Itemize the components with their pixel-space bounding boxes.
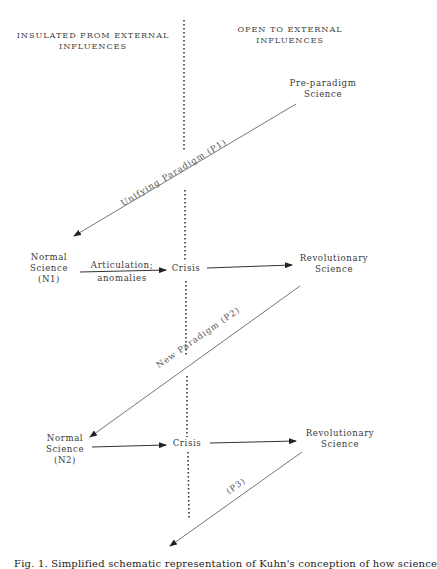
- node-crisis-1: Crisis: [168, 263, 204, 274]
- header-insulated-line2: INFLUENCES: [8, 41, 178, 52]
- rev1-line2: Science: [294, 264, 374, 275]
- node-revolutionary-science-2: Revolutionary Science: [300, 428, 380, 450]
- node-crisis-2: Crisis: [169, 438, 205, 449]
- node-pre-paradigm-science: Pre-paradigm Science: [288, 78, 358, 100]
- node-normal-science-n2: Normal Science (N2): [42, 433, 88, 466]
- n1-line3: (N1): [26, 274, 72, 285]
- n2-line1: Normal: [42, 433, 88, 444]
- header-open-line2: INFLUENCES: [220, 35, 360, 46]
- normal-to-crisis-arrow-2: [92, 445, 166, 447]
- header-insulated-line1: INSULATED FROM EXTERNAL: [8, 30, 178, 41]
- pre-paradigm-line1: Pre-paradigm: [288, 78, 358, 89]
- node-normal-science-n1: Normal Science (N1): [26, 252, 72, 285]
- header-open: OPEN TO EXTERNAL INFLUENCES: [220, 24, 360, 46]
- n1-line1: Normal: [26, 252, 72, 263]
- p3-arrow: [170, 452, 302, 546]
- rev2-line1: Revolutionary: [300, 428, 380, 439]
- crisis-to-revolutionary-arrow-2: [210, 441, 296, 443]
- header-open-line1: OPEN TO EXTERNAL: [220, 24, 360, 35]
- crisis-to-revolutionary-arrow-1: [207, 265, 292, 268]
- figure-caption: Fig. 1. Simplified schematic representat…: [14, 558, 437, 569]
- header-insulated: INSULATED FROM EXTERNAL INFLUENCES: [8, 30, 178, 52]
- n2-line2: Science: [42, 444, 88, 455]
- label-articulation: Articulation;: [82, 260, 162, 271]
- new-paradigm-arrow: [90, 286, 300, 437]
- rev1-line1: Revolutionary: [294, 253, 374, 264]
- n1-line2: Science: [26, 263, 72, 274]
- label-anomalies: anomalies: [82, 273, 162, 284]
- node-revolutionary-science-1: Revolutionary Science: [294, 253, 374, 275]
- n2-line3: (N2): [42, 455, 88, 466]
- rev2-line2: Science: [300, 439, 380, 450]
- pre-paradigm-line2: Science: [288, 89, 358, 100]
